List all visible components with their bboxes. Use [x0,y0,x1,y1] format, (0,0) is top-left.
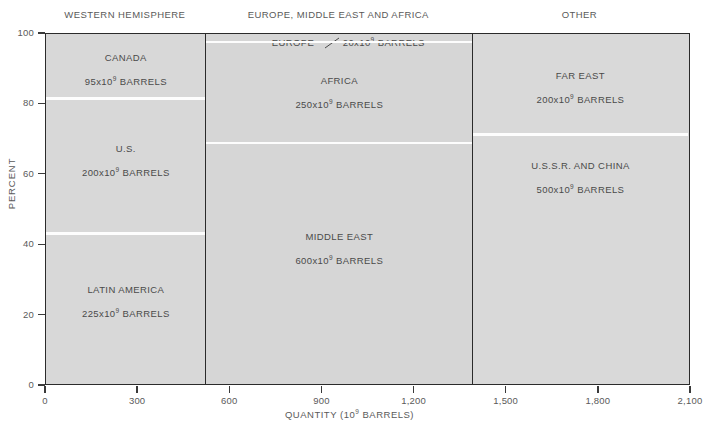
y-tick-label-100: 100 [0,27,34,38]
segment-middle-east: MIDDLE EAST 600x109 BARRELS [206,143,473,385]
segment-latin-america: LATIN AMERICA 225x109 BARRELS [46,234,206,385]
plot-area: CANADA 95x109 BARRELS U.S. 200x109 BARRE… [45,33,690,385]
x-tick-label-1200: 1,200 [389,395,439,406]
segment-far-east: FAR EAST 200x109 BARRELS [473,34,688,135]
y-tick-label-0: 0 [0,379,34,390]
segment-value-ussr-china: 500x109 BARRELS [473,184,688,195]
segment-canada: CANADA 95x109 BARRELS [46,34,206,98]
x-tick-2100 [689,386,690,393]
x-tick-1800 [597,386,598,393]
column-other: FAR EAST 200x109 BARRELS U.S.S.R. AND CH… [473,34,688,384]
x-tick-label-900: 900 [296,395,346,406]
group-header-other: OTHER [472,9,687,20]
segment-value-middle-east: 600x109 BARRELS [206,255,473,266]
x-tick-1200 [413,386,414,393]
segment-value-africa: 250x109 BARRELS [206,99,473,110]
segment-label-canada: CANADA [46,52,206,63]
segment-us: U.S. 200x109 BARRELS [46,98,206,233]
x-tick-900 [321,386,322,393]
y-tick-label-40: 40 [0,238,34,249]
x-tick-label-1800: 1,800 [573,395,623,406]
y-tick-60 [38,173,45,174]
x-tick-300 [136,386,137,393]
segment-label-middle-east: MIDDLE EAST [206,231,473,242]
y-tick-100 [38,32,45,33]
y-axis-title: PERCENT [6,149,17,219]
x-tick-label-0: 0 [20,395,70,406]
x-tick-0 [44,386,45,393]
y-tick-label-60: 60 [0,168,34,179]
y-tick-40 [38,244,45,245]
segment-label-latin-america: LATIN AMERICA [46,284,206,295]
segment-value-far-east: 200x109 BARRELS [473,94,688,105]
x-axis-title: QUANTITY (109 BARRELS) [0,409,699,420]
segment-value-latin-america: 225x109 BARRELS [46,308,206,319]
segment-label-ussr-china: U.S.S.R. AND CHINA [473,160,688,171]
segment-label-far-east: FAR EAST [473,70,688,81]
y-tick-20 [38,314,45,315]
y-tick-label-20: 20 [0,309,34,320]
segment-africa: AFRICA 250x109 BARRELS [206,42,473,143]
x-tick-label-600: 600 [204,395,254,406]
x-tick-600 [229,386,230,393]
column-western-hemisphere: CANADA 95x109 BARRELS U.S. 200x109 BARRE… [46,34,206,384]
x-tick-1500 [505,386,506,393]
segment-label-africa: AFRICA [206,75,473,86]
segment-label-us: U.S. [46,143,206,154]
segment-value-us: 200x109 BARRELS [46,167,206,178]
x-tick-label-1500: 1,500 [481,395,531,406]
y-tick-label-80: 80 [0,97,34,108]
y-tick-80 [38,103,45,104]
x-tick-label-2100: 2,100 [665,395,707,406]
segment-value-canada: 95x109 BARRELS [46,76,206,87]
group-header-europe-middle-east-africa: EUROPE, MIDDLE EAST AND AFRICA [205,9,472,20]
column-europe-middle-east-africa: EUROPE 20x109 BARRELS AFRICA 250x109 BAR… [206,34,473,384]
x-tick-label-300: 300 [112,395,162,406]
group-header-western-hemisphere: WESTERN HEMISPHERE [45,9,205,20]
segment-ussr-china: U.S.S.R. AND CHINA 500x109 BARRELS [473,135,688,385]
